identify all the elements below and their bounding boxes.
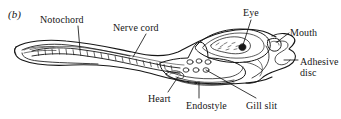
eye-pigment-spot [239, 44, 246, 51]
label-heart: Heart [148, 93, 171, 104]
label-notochord: Notochord [40, 14, 84, 25]
label-nerve-cord: Nerve cord [113, 22, 159, 33]
notochord-tip-detail-2 [24, 50, 56, 53]
adhesive-disc-inner [275, 41, 290, 65]
label-gill-slit: Gill slit [246, 100, 277, 111]
body-outline-ventral [15, 47, 272, 84]
trunk-disc-join [244, 62, 262, 70]
leader-eye [243, 20, 251, 45]
notochord-lower [32, 54, 180, 73]
tail-fin-lower [22, 53, 98, 64]
figure-panel: (b) [0, 0, 341, 119]
head-capsule-outer [195, 29, 270, 63]
label-adhesive-disc: Adhesive disc [300, 56, 341, 78]
label-mouth: Mouth [290, 27, 317, 38]
adhesive-disc-lobes [246, 34, 296, 84]
adhesive-disc-fold [252, 46, 269, 78]
leader-mouth [277, 33, 289, 42]
label-endostyle: Endostyle [186, 100, 227, 111]
myomere-segments [38, 49, 172, 70]
label-eye: Eye [243, 7, 259, 18]
